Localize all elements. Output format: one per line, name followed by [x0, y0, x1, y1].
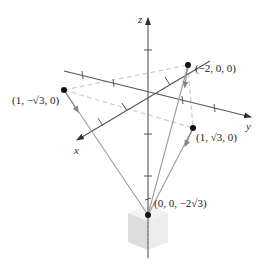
y-axis-label: y	[246, 121, 251, 132]
point-neg2-0-0-dot	[185, 62, 191, 68]
point-label-1-neg-sqrt3-0: (1, −√3, 0)	[12, 95, 59, 106]
z-axis-label: z	[138, 14, 142, 25]
point-label-neg2-0-0: (−2, 0, 0)	[195, 63, 236, 74]
point-1-neg-sqrt3-0-dot	[61, 87, 67, 93]
x-axis-label: x	[74, 145, 79, 156]
point-label-1-sqrt3-0: (1, √3, 0)	[196, 132, 237, 143]
rays	[64, 65, 193, 215]
y-axis	[64, 71, 251, 117]
point-label-0-0-neg2sqrt3: (0, 0, −2√3)	[154, 198, 207, 209]
point-0-0-neg2sqrt3-dot	[145, 212, 151, 218]
